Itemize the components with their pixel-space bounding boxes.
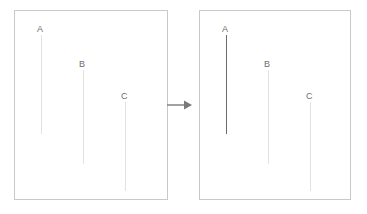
line-label-a: A — [37, 25, 43, 34]
vertical-line-a — [226, 35, 227, 134]
line-label-c: C — [121, 92, 128, 101]
line-label-b: B — [79, 60, 85, 69]
after-panel: A B C — [199, 10, 351, 200]
diagram-canvas: A B C A B C — [0, 0, 367, 214]
vertical-line-b — [268, 70, 269, 164]
line-label-c: C — [306, 92, 313, 101]
line-label-b: B — [264, 60, 270, 69]
vertical-line-b — [83, 70, 84, 164]
line-label-a: A — [222, 25, 228, 34]
before-panel: A B C — [14, 10, 168, 200]
vertical-line-c — [125, 102, 126, 191]
arrow-right-icon — [167, 98, 193, 112]
vertical-line-a — [41, 35, 42, 134]
vertical-line-c — [310, 102, 311, 191]
